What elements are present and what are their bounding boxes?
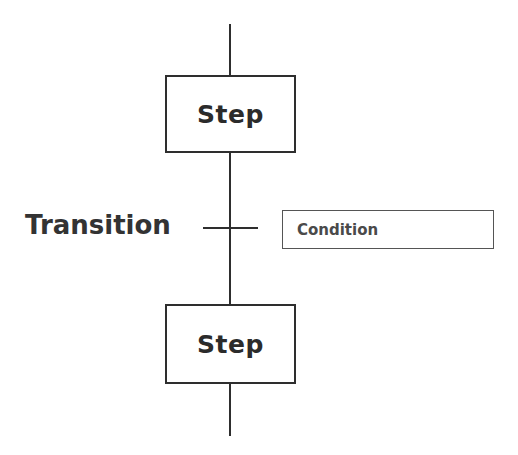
transition-label: Transition (25, 210, 171, 240)
flow-line-top (229, 24, 231, 76)
step-box-1[interactable]: Step (165, 75, 296, 153)
condition-box[interactable]: Condition (282, 210, 494, 249)
step-label-1: Step (197, 100, 264, 129)
condition-label: Condition (297, 221, 378, 239)
step-label-2: Step (197, 330, 264, 359)
transition-bar[interactable] (203, 227, 258, 229)
flow-line-bottom (229, 382, 231, 436)
step-box-2[interactable]: Step (165, 304, 296, 384)
